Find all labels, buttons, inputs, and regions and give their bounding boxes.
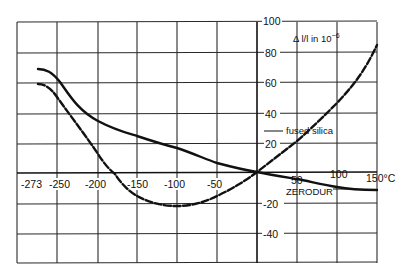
fused-silica-label: fused silica	[286, 125, 334, 136]
x-tick-neg50: -50	[207, 178, 222, 190]
y-tick-60: 60	[265, 77, 277, 89]
y-tick-neg20: -20	[263, 198, 278, 210]
fused-silica-annotation: fused silica	[264, 125, 334, 136]
axes	[17, 22, 377, 263]
zerodur-label: ZERODUR	[286, 186, 333, 197]
x-tick-neg150: -150	[127, 178, 148, 190]
x-tick-150c: 150°C	[366, 172, 396, 184]
y-tick-100: 100	[263, 15, 281, 27]
y-tick-20: 20	[265, 138, 277, 150]
y-unit-text: Δ l/l in 10−6	[293, 32, 340, 44]
x-tick-neg273: -273	[21, 178, 42, 190]
y-axis-labels: 100 80 60 40 20 -20 -40	[262, 14, 284, 240]
y-unit-label: Δ l/l in 10−6	[293, 32, 340, 44]
x-tick-100: 100	[330, 168, 348, 180]
y-tick-neg40: -40	[263, 228, 278, 240]
grid	[17, 21, 377, 263]
thermal-expansion-chart: 100 80 60 40 20 -20 -40 -273 -250 -200 -…	[0, 0, 408, 278]
x-tick-neg250: -250	[49, 178, 70, 190]
x-tick-neg200: -200	[85, 178, 106, 190]
x-tick-neg100: -100	[164, 178, 185, 190]
y-tick-80: 80	[265, 47, 277, 59]
y-tick-40: 40	[265, 108, 277, 120]
